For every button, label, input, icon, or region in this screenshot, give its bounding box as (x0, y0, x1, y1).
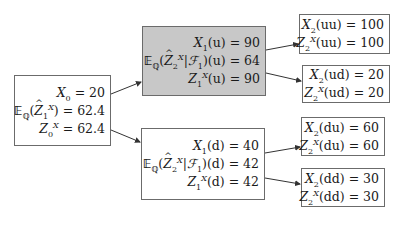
node-d-expectation: 𝔼ℚ(Z2X|ℱ1)(d) = 42 (143, 155, 259, 173)
node-root: X0 = 20 𝔼ℚ(Z1X) = 62.4 Z0X = 62.4 (14, 75, 111, 146)
node-ud-z: Z2X(ud) = 20 (304, 84, 384, 102)
node-root-expectation: 𝔼ℚ(Z1X) = 62.4 (14, 102, 105, 120)
node-ud-x: X2(ud) = 20 (310, 66, 384, 84)
node-root-z: Z0X = 62.4 (39, 120, 105, 138)
node-d-z: Z1X(d) = 42 (187, 173, 259, 191)
node-uu: X2(uu) = 100 Z2X(uu) = 100 (299, 14, 390, 54)
node-du-x: X2(du) = 60 (305, 119, 379, 137)
edge-d-du (265, 147, 300, 153)
edge-u-uu (266, 44, 298, 50)
node-root-x: X0 = 20 (57, 84, 105, 102)
edge-root-d (111, 130, 140, 142)
node-u-x: X1(u) = 90 (194, 34, 260, 52)
node-u-expectation: 𝔼ℚ(Z2X|ℱ1)(u) = 64 (144, 52, 260, 70)
node-uu-z: Z2X(uu) = 100 (296, 34, 384, 52)
node-d: X1(d) = 40 𝔼ℚ(Z2X|ℱ1)(d) = 42 Z1X(d) = 4… (141, 128, 265, 200)
node-u-z: Z1X(u) = 90 (188, 70, 260, 88)
node-uu-x: X2(uu) = 100 (302, 16, 384, 34)
edge-d-dd (265, 178, 300, 184)
node-dd-x: X2(dd) = 30 (305, 170, 379, 188)
node-u: X1(u) = 90 𝔼ℚ(Z2X|ℱ1)(u) = 64 Z1X(u) = 9… (142, 26, 266, 96)
edge-root-u (111, 82, 141, 94)
node-du: X2(du) = 60 Z2X(du) = 60 (301, 117, 385, 156)
node-ud: X2(ud) = 20 Z2X(ud) = 20 (302, 65, 390, 103)
edge-u-ud (266, 73, 301, 81)
node-du-z: Z2X(du) = 60 (299, 137, 379, 155)
node-d-x: X1(d) = 40 (193, 137, 259, 155)
node-dd-z: Z2X(dd) = 30 (299, 188, 379, 206)
node-dd: X2(dd) = 30 Z2X(dd) = 30 (301, 168, 385, 207)
